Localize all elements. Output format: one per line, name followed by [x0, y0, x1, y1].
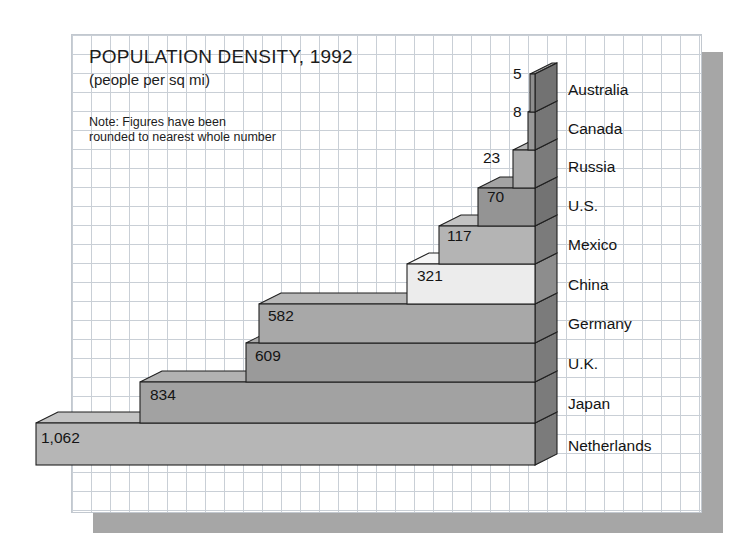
value-label-us: 70	[487, 189, 504, 205]
country-label-japan: Japan	[568, 396, 610, 412]
country-label-canada: Canada	[568, 121, 622, 137]
chart-note-line-2: rounded to nearest whole number	[89, 130, 276, 145]
country-label-germany: Germany	[568, 316, 632, 332]
country-label-netherlands: Netherlands	[568, 438, 652, 454]
value-label-japan: 834	[150, 387, 176, 403]
value-label-netherlands: 1,062	[41, 430, 80, 446]
chart-subtitle: (people per sq mi)	[89, 70, 469, 89]
chart-note-line-1: Note: Figures have been	[89, 115, 276, 130]
country-label-russia: Russia	[568, 159, 615, 175]
value-label-china: 321	[417, 268, 443, 284]
country-label-australia: Australia	[568, 82, 628, 98]
value-label-germany: 582	[268, 308, 294, 324]
country-label-mexico: Mexico	[568, 237, 617, 253]
value-label-uk: 609	[255, 348, 281, 364]
chart-image: POPULATION DENSITY, 1992 (people per sq …	[0, 0, 746, 546]
country-label-china: China	[568, 277, 609, 293]
chart-title: POPULATION DENSITY, 1992	[89, 46, 469, 68]
panel-drop-shadow-right	[702, 52, 723, 514]
value-label-canada: 8	[513, 104, 522, 120]
country-label-us: U.S.	[568, 198, 598, 214]
value-label-russia: 23	[483, 150, 500, 166]
value-label-australia: 5	[513, 66, 522, 82]
panel-drop-shadow-bottom	[93, 513, 723, 533]
chart-note: Note: Figures have been rounded to neare…	[89, 115, 276, 145]
country-label-uk: U.K.	[568, 356, 598, 372]
value-label-mexico: 117	[447, 228, 472, 244]
title-block: POPULATION DENSITY, 1992 (people per sq …	[89, 46, 469, 89]
